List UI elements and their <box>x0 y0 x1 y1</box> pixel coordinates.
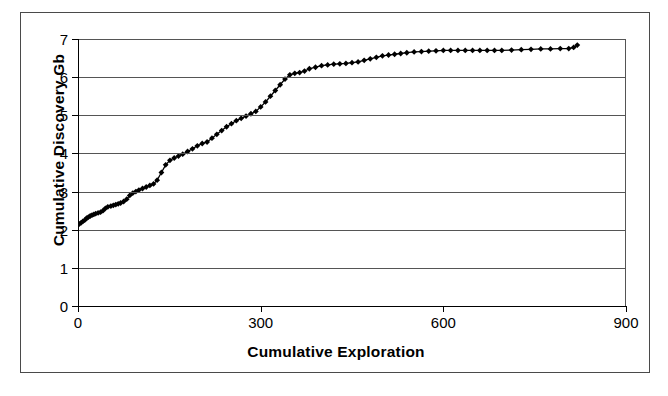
data-point-marker <box>433 48 439 54</box>
data-point-marker <box>557 46 563 52</box>
x-axis-line <box>78 306 626 307</box>
data-point-marker <box>292 70 298 76</box>
data-point-marker <box>297 70 303 76</box>
x-tick-label: 900 <box>596 314 656 331</box>
gridline <box>78 153 626 154</box>
gridline <box>78 77 626 78</box>
data-point-marker <box>470 48 476 54</box>
data-point-marker <box>367 56 373 62</box>
data-point-marker <box>392 51 398 57</box>
gridline <box>78 230 626 231</box>
y-tick-label: 5 <box>42 107 68 124</box>
series-polyline <box>79 45 577 224</box>
x-axis-title: Cumulative Exploration <box>21 343 651 361</box>
data-point-marker <box>548 46 554 52</box>
gridline <box>78 268 626 269</box>
y-tick-label: 1 <box>42 259 68 276</box>
data-point-marker <box>484 48 490 54</box>
data-point-marker <box>566 46 572 52</box>
data-point-marker <box>440 48 446 54</box>
data-point-marker <box>337 61 343 67</box>
right-spine <box>625 39 626 306</box>
data-point-marker <box>538 46 544 52</box>
gridline <box>78 39 626 40</box>
plot-area: 01234567 0300600900 <box>78 39 626 306</box>
x-tick-mark <box>626 306 627 312</box>
data-point-marker <box>355 59 361 65</box>
data-point-marker <box>509 47 515 53</box>
data-point-marker <box>426 48 432 54</box>
data-point-marker <box>361 57 367 63</box>
y-tick-label: 6 <box>42 69 68 86</box>
x-tick-label: 600 <box>413 314 473 331</box>
data-point-marker <box>398 51 404 57</box>
y-tick-label: 4 <box>42 145 68 162</box>
data-point-marker <box>302 68 308 74</box>
data-point-marker <box>411 49 417 55</box>
x-tick-label: 0 <box>48 314 108 331</box>
data-point-marker <box>343 61 349 67</box>
y-tick-label: 3 <box>42 183 68 200</box>
data-point-marker <box>306 66 312 72</box>
data-point-marker <box>331 61 337 67</box>
data-point-marker <box>199 141 205 147</box>
data-point-marker <box>419 49 425 55</box>
data-series-line <box>78 39 626 306</box>
data-point-marker <box>404 50 410 56</box>
data-point-marker <box>462 48 468 54</box>
data-point-marker <box>159 170 165 176</box>
data-point-marker <box>386 52 392 58</box>
chart-frame: Cumulative Discovery Gb Cumulative Explo… <box>20 12 650 373</box>
y-tick-label: 0 <box>42 298 68 315</box>
gridline <box>78 115 626 116</box>
data-point-marker <box>518 47 524 53</box>
x-tick-label: 300 <box>231 314 291 331</box>
data-point-marker <box>492 48 498 54</box>
data-point-marker <box>325 62 331 68</box>
data-point-marker <box>319 63 325 69</box>
data-point-marker <box>455 48 461 54</box>
chart-figure: Cumulative Discovery Gb Cumulative Explo… <box>0 0 668 396</box>
data-point-marker <box>238 115 244 121</box>
data-point-marker <box>349 60 355 66</box>
data-point-marker <box>373 54 379 60</box>
data-point-marker <box>477 48 483 54</box>
data-point-marker <box>528 46 534 52</box>
data-point-marker <box>448 48 454 54</box>
y-tick-label: 7 <box>42 31 68 48</box>
y-axis-line <box>78 39 79 306</box>
data-point-marker <box>499 48 505 54</box>
y-tick-label: 2 <box>42 221 68 238</box>
gridline <box>78 192 626 193</box>
data-point-marker <box>380 53 386 59</box>
data-point-marker <box>313 64 319 70</box>
